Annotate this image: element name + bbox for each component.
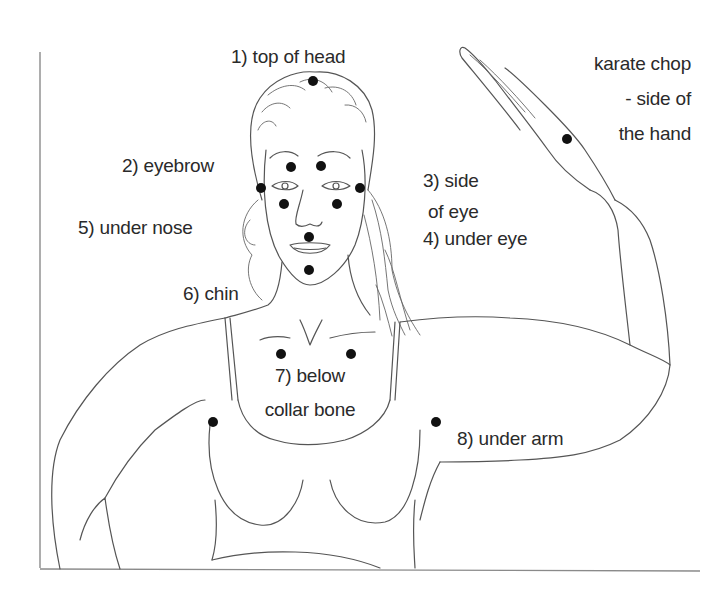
hair-drawing bbox=[243, 72, 420, 336]
label-text: 4) under eye bbox=[423, 228, 527, 250]
label-collar-bone: 7) below collar bone bbox=[245, 365, 375, 421]
label-eyebrow: 2) eyebrow bbox=[122, 155, 214, 177]
label-chin: 6) chin bbox=[183, 283, 239, 305]
point-under-arm-left bbox=[208, 417, 218, 427]
point-collar-bone-left bbox=[276, 349, 286, 359]
label-karate-chop: karate chop - side of the hand bbox=[556, 53, 691, 145]
face-drawing bbox=[264, 150, 365, 285]
label-under-eye: 4) under eye bbox=[423, 228, 527, 250]
label-top-of-head: 1) top of head bbox=[231, 46, 345, 68]
point-eyebrow-left bbox=[286, 162, 296, 172]
point-top-of-head bbox=[308, 76, 318, 86]
point-under-eye-left bbox=[279, 199, 289, 209]
point-side-of-eye-left bbox=[256, 183, 266, 193]
label-text: 2) eyebrow bbox=[122, 155, 214, 177]
point-chin bbox=[304, 265, 314, 275]
label-text: 5) under nose bbox=[78, 217, 193, 239]
label-text: collar bone bbox=[245, 399, 375, 421]
label-text: 7) below bbox=[245, 365, 375, 387]
label-under-nose: 5) under nose bbox=[78, 217, 193, 239]
point-under-arm-right bbox=[431, 417, 441, 427]
label-under-arm: 8) under arm bbox=[457, 428, 563, 450]
point-side-of-eye-right bbox=[355, 183, 365, 193]
label-side-of-eye: 3) side of eye bbox=[423, 170, 479, 223]
point-under-eye-right bbox=[332, 199, 342, 209]
label-text: 1) top of head bbox=[231, 46, 345, 68]
label-text: 6) chin bbox=[183, 283, 239, 305]
label-text: 3) side bbox=[423, 170, 479, 192]
label-text: - side of bbox=[556, 88, 691, 110]
label-text: karate chop bbox=[556, 53, 691, 75]
label-text: 8) under arm bbox=[457, 428, 563, 450]
point-eyebrow-right bbox=[316, 161, 326, 171]
label-text: the hand bbox=[556, 123, 691, 145]
label-text: of eye bbox=[423, 201, 479, 223]
point-under-nose bbox=[304, 232, 314, 242]
point-collar-bone-right bbox=[346, 349, 356, 359]
